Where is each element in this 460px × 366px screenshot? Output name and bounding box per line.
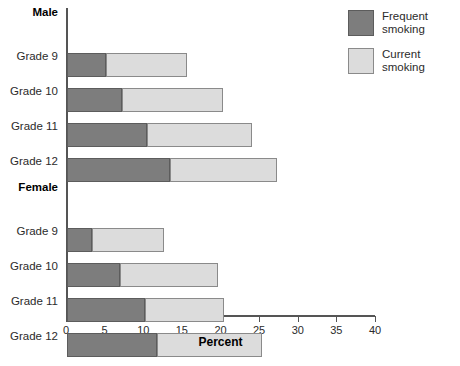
bar-row (67, 123, 252, 147)
bar-row (67, 53, 187, 77)
category-label: Grade 10 (10, 85, 58, 98)
legend-label: Current smoking (382, 48, 425, 74)
bar-segment-frequent-smoking (67, 123, 147, 147)
category-label: Grade 11 (11, 120, 58, 133)
legend-swatch-current (348, 48, 374, 74)
bar-segment-frequent-smoking (67, 53, 106, 77)
bar-segment-current-smoking (120, 263, 218, 287)
category-label: Grade 9 (16, 225, 58, 238)
category-label: Grade 11 (11, 295, 58, 308)
bar-segment-current-smoking (170, 158, 277, 182)
bar-row (67, 298, 224, 322)
category-label: Grade 12 (10, 155, 58, 168)
bar-row (67, 88, 223, 112)
legend-item: Frequent smoking (348, 10, 458, 36)
bar-segment-current-smoking (147, 123, 252, 147)
category-label: Grade 9 (16, 50, 58, 63)
legend-label: Frequent smoking (382, 10, 428, 36)
bar-segment-current-smoking (122, 88, 223, 112)
legend-swatch-frequent (348, 10, 374, 36)
bar-segment-frequent-smoking (67, 228, 92, 252)
x-tick (298, 316, 299, 322)
legend-item: Current smoking (348, 48, 458, 74)
bar-segment-current-smoking (106, 53, 186, 77)
bar-segment-frequent-smoking (67, 263, 120, 287)
group-label-male: Male (32, 6, 58, 19)
x-tick (336, 316, 337, 322)
x-tick (375, 316, 376, 322)
bar-segment-current-smoking (92, 228, 165, 252)
bar-row (67, 228, 164, 252)
category-label: Grade 12 (10, 330, 58, 343)
x-axis-title: Percent (66, 335, 375, 349)
bar-row (67, 263, 218, 287)
category-labels-column: MaleGrade 9Grade 10Grade 11Grade 12Femal… (0, 0, 62, 312)
stacked-bar-chart: MaleGrade 9Grade 10Grade 11Grade 12Femal… (0, 0, 460, 366)
x-tick (259, 316, 260, 322)
bar-segment-current-smoking (145, 298, 224, 322)
bar-segment-frequent-smoking (67, 158, 170, 182)
chart-legend: Frequent smokingCurrent smoking (348, 10, 458, 86)
category-label: Grade 10 (10, 260, 58, 273)
group-label-female: Female (18, 181, 58, 194)
bar-segment-frequent-smoking (67, 298, 145, 322)
bar-segment-frequent-smoking (67, 88, 122, 112)
bar-row (67, 158, 277, 182)
